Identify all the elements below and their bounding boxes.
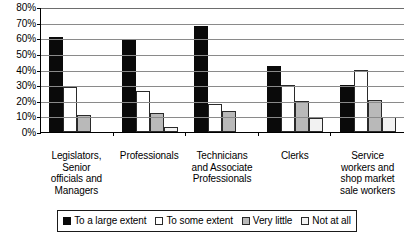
x-axis-label-line: workers and <box>333 162 402 174</box>
x-axis-label-line: Professionals <box>188 173 257 185</box>
x-axis-label: Techniciansand AssociateProfessionals <box>186 150 259 196</box>
legend-item[interactable]: To a large extent <box>63 216 146 226</box>
y-tick-mark <box>37 24 41 25</box>
bar <box>267 66 281 132</box>
x-axis-label: Legislators,Seniorofficials andManagers <box>40 150 113 196</box>
bar <box>63 87 77 132</box>
legend-swatch-icon <box>242 217 250 225</box>
x-axis-label-line: Professionals <box>115 150 184 162</box>
bar <box>136 91 150 132</box>
x-axis-label-line: Senior <box>42 162 111 174</box>
x-tick-mark <box>185 132 186 136</box>
x-axis-label-line: officials and <box>42 173 111 185</box>
gridline <box>41 86 404 87</box>
gridline <box>41 24 404 25</box>
x-axis-label: Serviceworkers andshop marketsale worker… <box>331 150 404 196</box>
legend-label: Very little <box>253 216 292 226</box>
legend-item[interactable]: Very little <box>242 216 292 226</box>
y-tick-label: 30% <box>16 81 36 91</box>
legend-swatch-icon <box>155 217 163 225</box>
legend-item[interactable]: Not at all <box>301 216 350 226</box>
x-axis-label-line: Clerks <box>260 150 329 162</box>
y-tick-label: 0% <box>22 128 36 138</box>
y-tick-label: 40% <box>16 66 36 76</box>
gridline <box>41 71 404 72</box>
bar <box>150 113 164 132</box>
gridline <box>41 117 404 118</box>
gridline <box>41 39 404 40</box>
y-tick-mark <box>37 39 41 40</box>
y-tick-label: 70% <box>16 19 36 29</box>
y-tick-mark <box>37 8 41 9</box>
bar <box>368 100 382 132</box>
bar-chart: 80%70%60%50%40%30%20%10%0% Legislators,S… <box>0 0 410 245</box>
gridline <box>41 8 404 9</box>
x-tick-mark <box>258 132 259 136</box>
gridline <box>41 55 404 56</box>
y-tick-label: 20% <box>16 97 36 107</box>
x-axis-label-line: Managers <box>42 185 111 197</box>
x-axis-label-line: sale workers <box>333 185 402 197</box>
x-tick-mark <box>113 132 114 136</box>
legend-label: To some extent <box>166 216 232 226</box>
y-tick-mark <box>37 117 41 118</box>
y-axis: 80%70%60%50%40%30%20%10%0% <box>0 8 36 133</box>
legend-swatch-icon <box>63 217 71 225</box>
bar <box>281 85 295 132</box>
plot-wrapper: 80%70%60%50%40%30%20%10%0% <box>0 8 410 148</box>
legend-label: Not at all <box>312 216 350 226</box>
x-axis-label-line: Service <box>333 150 402 162</box>
x-axis-label-line: Technicians <box>188 150 257 162</box>
x-axis-label: Professionals <box>113 150 186 196</box>
bar <box>295 101 309 132</box>
bar <box>309 118 323 132</box>
bar <box>382 117 396 132</box>
y-tick-label: 50% <box>16 50 36 60</box>
gridline <box>41 102 404 103</box>
legend-label: To a large extent <box>74 216 146 226</box>
y-tick-label: 80% <box>16 3 36 13</box>
y-tick-mark <box>37 55 41 56</box>
x-axis-label-line: Legislators, <box>42 150 111 162</box>
y-tick-mark <box>37 71 41 72</box>
y-tick-label: 10% <box>16 112 36 122</box>
x-axis-labels: Legislators,Seniorofficials andManagersP… <box>40 150 404 196</box>
chart-legend: To a large extentTo some extentVery litt… <box>57 210 357 232</box>
x-tick-mark <box>330 132 331 136</box>
legend-swatch-icon <box>301 217 309 225</box>
plot-area <box>40 8 404 133</box>
x-axis-label-line: shop market <box>333 173 402 185</box>
bar <box>222 111 236 132</box>
bar <box>340 85 354 132</box>
y-tick-mark <box>37 102 41 103</box>
x-axis-label-line: and Associate <box>188 162 257 174</box>
legend-item[interactable]: To some extent <box>155 216 232 226</box>
bar <box>194 26 208 132</box>
x-axis-label: Clerks <box>258 150 331 196</box>
y-tick-label: 60% <box>16 34 36 44</box>
bar <box>164 127 178 132</box>
y-tick-mark <box>37 86 41 87</box>
y-tick-mark <box>37 133 41 134</box>
